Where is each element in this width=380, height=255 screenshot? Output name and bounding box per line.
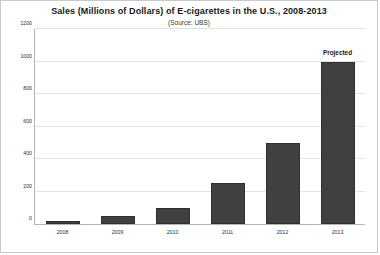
bar-2013[interactable] [321, 62, 355, 225]
y-axis-tick-label: 200 [23, 183, 32, 189]
page-title: Sales (Millions of Dollars) of E-cigaret… [1, 6, 377, 17]
bars-group: 200820092010201120122013 [35, 29, 365, 224]
y-axis-tick-label: 400 [23, 150, 32, 156]
bar-2012[interactable] [266, 143, 300, 224]
chart-subtitle-source: (Source: UBS) [1, 18, 377, 27]
bar-2008[interactable] [46, 221, 80, 224]
bar-slot: 2010 [145, 29, 200, 224]
plot-area: 020040060080010001200 200820092010201120… [34, 29, 365, 225]
bar-2011[interactable] [211, 183, 245, 224]
bar-slot: 2009 [90, 29, 145, 224]
y-axis-tick-label: 1000 [20, 53, 32, 59]
y-axis-tick-label: 800 [23, 85, 32, 91]
bar-slot: 2008 [35, 29, 90, 224]
x-axis-tick-label: 2009 [112, 229, 124, 235]
bar-2010[interactable] [156, 208, 190, 224]
x-axis-tick-label: 2008 [57, 229, 69, 235]
y-axis-tick-label: 0 [29, 215, 32, 221]
y-axis-tick-label: 1200 [20, 20, 32, 26]
y-axis-tick-label: 600 [23, 118, 32, 124]
bar-2009[interactable] [101, 216, 135, 224]
bar-slot: 2012 [255, 29, 310, 224]
chart-figure: Sales (Millions of Dollars) of E-cigaret… [0, 0, 378, 253]
x-axis-tick-label: 2011 [222, 229, 233, 235]
x-axis-tick-label: 2012 [277, 229, 289, 235]
x-axis-tick-label: 2013 [332, 229, 344, 235]
bar-slot: 2013 [310, 29, 365, 224]
bar-slot: 2011 [200, 29, 255, 224]
annotation-projected: Projected [323, 49, 352, 56]
title-block: Sales (Millions of Dollars) of E-cigaret… [1, 6, 377, 27]
x-axis-tick-label: 2010 [167, 229, 179, 235]
